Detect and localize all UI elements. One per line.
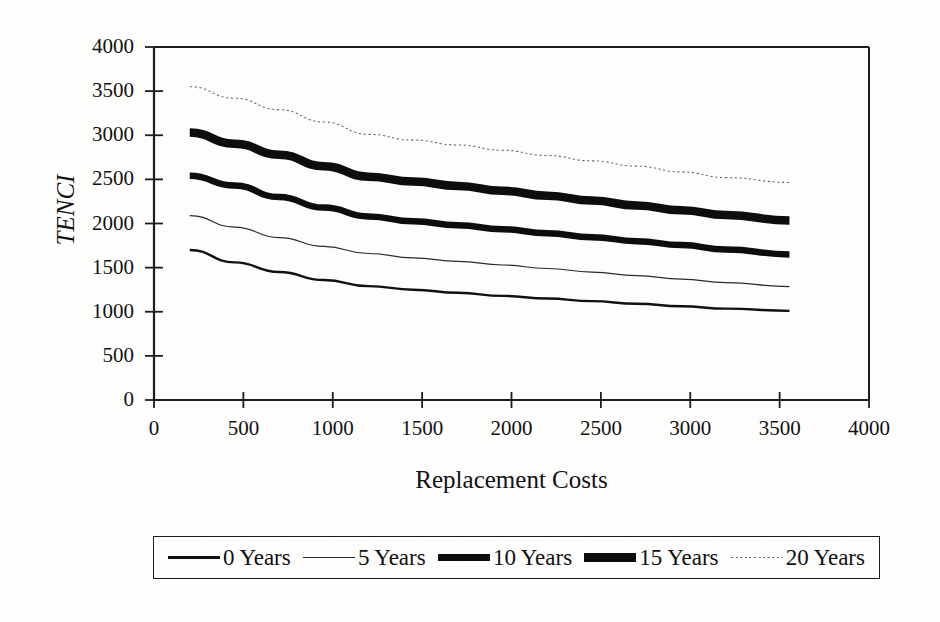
x-tick-label: 3500 <box>735 418 825 439</box>
x-tick-label: 1000 <box>288 418 378 439</box>
plot-frame <box>154 47 869 400</box>
series-line-20-years <box>190 87 790 183</box>
y-tick-label: 3500 <box>56 80 134 101</box>
legend-item-label: 10 Years <box>493 546 572 570</box>
x-tick-label: 3000 <box>645 418 735 439</box>
line-thicker-swatch <box>584 551 636 565</box>
y-tick-label: 4000 <box>56 36 134 57</box>
x-tick-label: 500 <box>198 418 288 439</box>
x-axis-title: Replacement Costs <box>154 466 869 494</box>
x-tick-label: 2000 <box>467 418 557 439</box>
legend-item-5-years[interactable]: 5 Years <box>303 546 426 570</box>
x-tick-label: 2500 <box>556 418 646 439</box>
chart-legend: 0 Years5 Years10 Years15 Years20 Years <box>153 536 880 579</box>
line-medium-swatch <box>168 551 220 565</box>
series-line-15-years <box>190 133 790 221</box>
x-tick-label: 4000 <box>824 418 914 439</box>
legend-item-20-years[interactable]: 20 Years <box>731 546 865 570</box>
y-axis-title-text: TENCI <box>52 175 80 246</box>
legend-item-10-years[interactable]: 10 Years <box>438 546 572 570</box>
legend-item-0-years[interactable]: 0 Years <box>168 546 291 570</box>
y-tick-label: 500 <box>56 345 134 366</box>
y-axis-title: TENCI <box>6 140 126 280</box>
chart-figure: 05001000150020002500300035004000 0500100… <box>0 0 940 622</box>
line-dotted-swatch <box>731 551 783 565</box>
legend-item-label: 0 Years <box>223 546 291 570</box>
line-thick-swatch <box>438 551 490 565</box>
line-thin-swatch <box>303 551 355 565</box>
y-tick-label: 1000 <box>56 301 134 322</box>
x-tick-label: 1500 <box>377 418 467 439</box>
legend-item-label: 20 Years <box>786 546 865 570</box>
legend-item-15-years[interactable]: 15 Years <box>584 546 718 570</box>
y-tick-label: 0 <box>56 389 134 410</box>
chart-canvas <box>0 0 940 622</box>
legend-item-label: 15 Years <box>639 546 718 570</box>
x-tick-label: 0 <box>109 418 199 439</box>
series-layer <box>190 87 790 311</box>
legend-item-label: 5 Years <box>358 546 426 570</box>
